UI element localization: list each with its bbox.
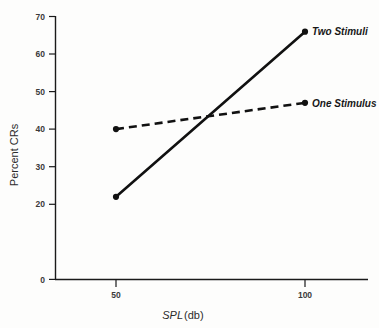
series-one-stimulus: One Stimulus [113,98,377,133]
x-tick-label-100: 100 [298,290,312,300]
series-one-stimulus-point-100 [302,100,308,106]
y-tick-label-0: 0 [40,275,45,285]
y-axis-title: Percent CRs [8,123,20,186]
series-two-stimuli-point-100 [302,29,308,35]
y-axis-ticks [49,17,55,280]
axes-group [55,16,368,280]
chart-figure: 70 60 50 40 30 20 0 50 100 Percent CRs S… [0,0,379,328]
series-one-stimulus-label: One Stimulus [312,98,377,109]
series-two-stimuli-point-50 [113,194,119,200]
series-one-stimulus-point-50 [113,126,119,132]
y-tick-label-30: 30 [36,162,46,172]
series-two-stimuli: Two Stimuli [113,26,368,200]
y-tick-label-50: 50 [36,87,46,97]
x-axis-title-italic-part: SPL [162,309,183,321]
series-two-stimuli-label: Two Stimuli [312,26,368,37]
y-tick-label-40: 40 [36,124,46,134]
x-axis-title: SPL (db) [162,309,203,321]
y-tick-label-20: 20 [36,199,46,209]
y-axis-tick-labels: 70 60 50 40 30 20 0 [36,12,46,285]
series-two-stimuli-line [116,32,305,197]
y-tick-label-70: 70 [36,12,46,22]
x-axis-title-plain-part: (db) [184,309,204,321]
y-tick-label-60: 60 [36,49,46,59]
x-axis-ticks [116,280,305,288]
line-chart-canvas: 70 60 50 40 30 20 0 50 100 Percent CRs S… [0,0,379,328]
x-tick-label-50: 50 [111,290,121,300]
x-axis-tick-labels: 50 100 [111,290,312,300]
